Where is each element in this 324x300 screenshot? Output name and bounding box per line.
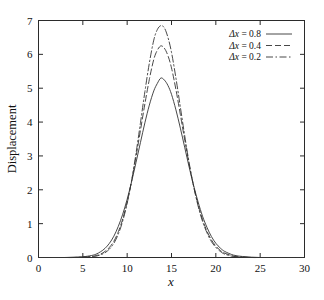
x-tick-label: 0 xyxy=(36,262,42,274)
y-tick-label: 4 xyxy=(27,116,33,128)
y-tick-label: 1 xyxy=(27,218,33,230)
y-tick-label: 6 xyxy=(27,48,33,60)
y-axis-title: Displacement xyxy=(5,104,19,173)
legend-label-1: Δx = 0.4 xyxy=(228,41,261,51)
x-tick-label: 15 xyxy=(166,262,178,274)
legend-label-2: Δx = 0.2 xyxy=(228,52,261,62)
x-tick-label: 10 xyxy=(122,262,134,274)
x-tick-label: 20 xyxy=(210,262,222,274)
x-axis-title: x xyxy=(167,274,174,289)
y-tick-label: 3 xyxy=(27,150,33,162)
y-tick-label: 5 xyxy=(27,82,33,94)
x-tick-label: 30 xyxy=(299,262,311,274)
figure-container: 051015202530 01234567 Displacement x Δx … xyxy=(0,0,324,300)
x-tick-label: 25 xyxy=(255,262,267,274)
chart-background xyxy=(0,0,324,300)
legend-label-0: Δx = 0.8 xyxy=(228,29,261,39)
y-tick-label: 2 xyxy=(27,184,33,196)
displacement-line-chart: 051015202530 01234567 Displacement x Δx … xyxy=(0,0,324,300)
x-tick-label: 5 xyxy=(80,262,86,274)
y-tick-label: 0 xyxy=(27,252,33,264)
y-tick-label: 7 xyxy=(27,15,33,27)
